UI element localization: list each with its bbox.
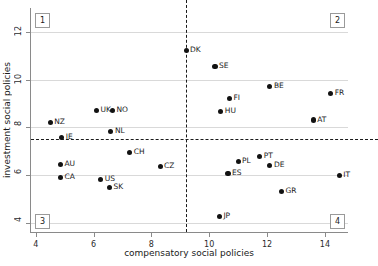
y-axis-line (30, 8, 31, 232)
point-label-GR: GR (286, 186, 297, 196)
y-axis-title: investment social policies (2, 8, 12, 232)
point-marker (58, 162, 63, 167)
x-tick-14 (325, 233, 326, 237)
point-marker (108, 129, 113, 134)
point-marker (217, 214, 222, 219)
x-axis-title-text: compensatory social policies (124, 248, 254, 258)
point-marker (158, 164, 163, 169)
point-label-PT: PT (264, 151, 273, 161)
point-label-FI: FI (234, 93, 241, 103)
vertical-reference-line (186, 0, 187, 232)
y-axis-title-text: investment social policies (2, 62, 12, 178)
point-marker (328, 91, 333, 96)
x-axis-line (30, 232, 348, 233)
point-label-SK: SK (114, 182, 124, 192)
y-tick-12 (26, 32, 30, 33)
quadrant-box-3: 3 (35, 214, 50, 229)
x-tick-12 (267, 233, 268, 237)
y-tick-label-4: 4 (14, 217, 23, 222)
point-label-IT: IT (343, 170, 350, 180)
gridline-y-6 (31, 175, 348, 176)
point-marker (127, 150, 132, 155)
point-label-CZ: CZ (164, 161, 174, 171)
point-label-SE: SE (219, 61, 229, 71)
plot-area: 4681012 468101214 DKSEBEFRFIHUUKNOATNZNL… (30, 8, 348, 232)
point-label-HU: HU (225, 106, 236, 116)
point-label-CA: CA (64, 172, 74, 182)
point-marker (184, 48, 189, 53)
gridline-y-10 (31, 80, 348, 81)
point-marker (227, 96, 232, 101)
point-label-CH: CH (134, 147, 145, 157)
point-label-DK: DK (190, 45, 201, 55)
point-label-DE: DE (274, 160, 285, 170)
point-label-AT: AT (317, 115, 326, 125)
point-marker (236, 159, 241, 164)
point-label-ES: ES (232, 168, 242, 178)
y-tick-10 (26, 80, 30, 81)
point-marker (98, 177, 103, 182)
point-marker (110, 108, 115, 113)
point-label-IE: IE (66, 132, 73, 142)
point-marker (267, 163, 272, 168)
point-marker (48, 120, 53, 125)
point-marker (257, 154, 262, 159)
point-label-NL: NL (115, 126, 125, 136)
y-tick-4 (26, 223, 30, 224)
quadrant-box-1: 1 (35, 13, 50, 28)
point-marker (225, 171, 230, 176)
point-marker (94, 108, 99, 113)
y-tick-label-6: 6 (14, 169, 23, 174)
point-marker (337, 173, 342, 178)
y-tick-label-12: 12 (14, 26, 23, 36)
y-tick-label-10: 10 (14, 74, 23, 84)
gridline-y-8 (31, 127, 348, 128)
gridline-y-12 (31, 32, 348, 33)
x-tick-4 (36, 233, 37, 237)
x-tick-6 (94, 233, 95, 237)
point-label-BE: BE (274, 81, 284, 91)
point-label-FR: FR (335, 88, 345, 98)
x-axis-title: compensatory social policies (30, 248, 348, 258)
point-marker (58, 175, 63, 180)
point-label-AU: AU (64, 159, 75, 169)
x-tick-8 (151, 233, 152, 237)
point-marker (279, 189, 284, 194)
y-tick-label-8: 8 (14, 121, 23, 126)
quadrant-box-2: 2 (330, 13, 345, 28)
point-label-NO: NO (116, 105, 128, 115)
x-tick-10 (209, 233, 210, 237)
y-tick-8 (26, 127, 30, 128)
point-label-NZ: NZ (54, 117, 65, 127)
quadrant-box-4: 4 (330, 214, 345, 229)
point-label-PL: PL (242, 156, 251, 166)
horizontal-reference-line (31, 139, 378, 140)
y-tick-6 (26, 175, 30, 176)
point-marker (267, 84, 272, 89)
point-marker (212, 64, 217, 69)
point-marker (107, 185, 112, 190)
point-marker (311, 117, 316, 122)
point-label-JP: JP (223, 211, 230, 221)
point-marker (218, 109, 223, 114)
gridline-y-4 (31, 223, 348, 224)
